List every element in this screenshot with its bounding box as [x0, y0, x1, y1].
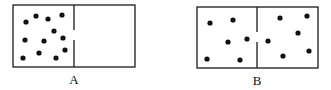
particle-dot — [41, 38, 46, 43]
panel-a-label: A — [69, 72, 78, 88]
particle-dot — [62, 47, 67, 52]
particle-dot — [22, 37, 27, 42]
panel-a — [13, 5, 135, 67]
particle-dot — [244, 36, 249, 41]
particle-dot — [304, 13, 309, 18]
particle-dot — [60, 35, 65, 40]
particle-dot — [237, 57, 242, 62]
particle-dot — [36, 50, 41, 55]
particle-dot — [33, 13, 38, 18]
particle-dot — [306, 48, 311, 53]
particle-dot — [59, 12, 64, 17]
panel-b — [197, 7, 318, 68]
particle-dot — [53, 55, 58, 60]
particle-dot — [20, 55, 25, 60]
particle-dot — [265, 38, 270, 43]
particle-dot — [277, 15, 282, 20]
particle-dot — [51, 28, 56, 33]
particle-dot — [45, 16, 50, 21]
diagram-canvas — [0, 0, 331, 90]
particle-dot — [23, 19, 28, 24]
particle-dot — [295, 30, 300, 35]
particle-dot — [225, 39, 230, 44]
particle-dot — [207, 20, 212, 25]
particle-dot — [204, 56, 209, 61]
particle-dot — [280, 53, 285, 58]
particle-dot — [230, 17, 235, 22]
panel-b-label: B — [253, 73, 262, 89]
